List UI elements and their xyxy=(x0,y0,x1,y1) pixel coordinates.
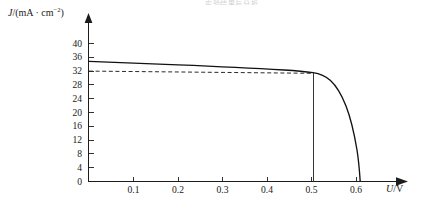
y-tick-label-20: 20 xyxy=(72,108,82,118)
y-tick-label-16: 16 xyxy=(72,122,82,132)
y-tick-label-4: 4 xyxy=(77,163,82,173)
x-tick-label-0-3: 0.3 xyxy=(217,185,229,195)
y-axis-arrow-icon xyxy=(85,13,93,23)
x-tick-label-0-2: 0.2 xyxy=(172,185,184,195)
y-tick-label-0: 0 xyxy=(77,177,82,187)
x-tick-marks xyxy=(134,177,357,182)
x-axis-title-units: /V xyxy=(393,183,403,194)
y-axis-title: J/(mA · cm−2) xyxy=(8,8,64,18)
y-tick-label-8: 8 xyxy=(77,149,82,159)
mpp-current-dashed-line xyxy=(89,71,313,73)
y-axis-title-exponent: −2 xyxy=(54,6,61,13)
y-axis-title-paren: ) xyxy=(61,7,64,18)
y-tick-label-12: 12 xyxy=(72,135,82,145)
jv-curve-figure: 实验结果与分析 xyxy=(0,0,421,204)
y-axis-title-units: /(mA · cm xyxy=(12,7,53,18)
jv-plot-canvas xyxy=(0,0,421,204)
x-axis-title: U/V xyxy=(386,184,403,194)
jv-curve-path xyxy=(89,61,360,181)
y-tick-label-40: 40 xyxy=(72,39,82,49)
x-tick-label-0-4: 0.4 xyxy=(261,185,273,195)
y-tick-label-24: 24 xyxy=(72,94,82,104)
y-tick-marks xyxy=(89,44,94,182)
x-tick-label-0-1: 0.1 xyxy=(128,185,140,195)
y-tick-label-28: 28 xyxy=(72,80,82,90)
y-tick-label-32: 32 xyxy=(72,66,82,76)
x-tick-label-0-5: 0.5 xyxy=(306,185,318,195)
y-tick-label-36: 36 xyxy=(72,53,82,63)
x-tick-label-0-6: 0.6 xyxy=(350,185,362,195)
